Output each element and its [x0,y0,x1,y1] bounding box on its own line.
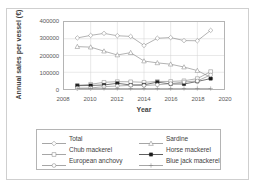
marker-plus [168,86,172,90]
legend-item-label: Horse mackerel [166,146,211,153]
y-axis-tick-label: 400000 [15,18,59,24]
marker-triangle [128,50,133,54]
marker-plus [182,86,186,90]
legend-item-label: Chub mackerel [69,146,112,153]
legend-item-sardine[interactable]: Sardine [138,134,222,143]
x-axis-tick-label: 2008 [51,96,75,102]
y-axis-tick-label: 100000 [15,70,59,76]
marker-diamond [102,31,107,35]
y-axis-tick-label: 200000 [15,53,59,59]
x-axis-tick-label: 2018 [186,96,210,102]
marker-plus [208,86,212,90]
chart-legend: TotalSardineChub mackerelHorse mackerelE… [36,129,221,170]
marker-circle [182,80,186,84]
legend-marker-icon [138,145,164,154]
x-axis-tick-labels: 2008201020122014201620182020 [63,94,225,104]
y-axis-tick-label: 0 [15,87,59,93]
marker-circle [52,164,56,168]
marker-diamond [115,34,120,38]
marker-diamond [182,38,187,42]
legend-marker-icon [41,134,67,143]
x-axis-tick-label: 2014 [132,96,156,102]
legend-item-label: Sardine [166,135,188,142]
legend-item-label: European anchovy [69,157,122,164]
marker-circle [169,82,173,86]
x-axis-tick-label: 2012 [105,96,129,102]
marker-diamond [142,43,147,47]
marker-square-filled [209,77,212,80]
legend-item-european-anchovy[interactable]: European anchovy [41,156,138,165]
marker-plus [155,86,159,90]
legend-item-label: Total [69,135,82,142]
legend-item-chub-mackerel[interactable]: Chub mackerel [41,145,138,154]
marker-circle [209,73,213,77]
series-blue-jack-mackerel [75,86,213,90]
marker-diamond [88,33,93,37]
x-axis-tick-label: 2016 [159,96,183,102]
marker-diamond [155,36,160,40]
legend-item-blue-jack-mackerel[interactable]: Blue jack mackerel [138,156,222,165]
x-axis-tick-label: 2010 [78,96,102,102]
marker-circle [195,79,199,83]
marker-square [129,80,133,84]
legend-marker-icon [41,156,67,165]
legend-marker-icon [138,156,164,165]
marker-diamond [75,36,80,40]
marker-plus [149,163,153,167]
plot-svg [64,22,224,89]
marker-triangle [142,59,147,63]
legend-item-label: Blue jack mackerel [166,157,220,164]
y-axis-tick-label: 300000 [15,35,59,41]
marker-plus [195,86,199,90]
legend-item-horse-mackerel[interactable]: Horse mackerel [138,145,222,154]
marker-triangle [75,44,80,48]
x-axis-title: Year [63,106,225,113]
chart-figure: Annual sales per vessel (€) 010000020000… [6,8,249,180]
plot-area [63,21,225,90]
x-axis-tick-label: 2020 [213,96,237,102]
marker-diamond [168,35,173,39]
marker-diamond [128,34,133,38]
marker-plus [128,86,132,90]
legend-marker-icon [41,145,67,154]
marker-circle [155,83,159,87]
legend-item-total[interactable]: Total [41,134,138,143]
legend-marker-icon [138,134,164,143]
